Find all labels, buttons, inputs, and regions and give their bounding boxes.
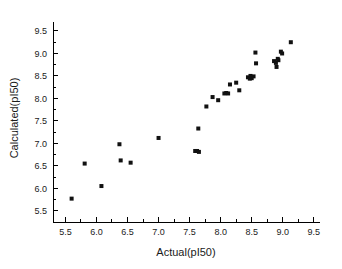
y-tick-label: 5.5	[34, 206, 47, 216]
x-tick-label: 7.5	[183, 227, 196, 237]
x-tick-label: 9.5	[308, 227, 321, 237]
data-point	[197, 150, 201, 154]
data-point	[276, 58, 280, 62]
data-point	[254, 61, 258, 65]
data-point	[237, 88, 241, 92]
y-tick-label: 7.5	[34, 116, 47, 126]
x-tick-label: 9.0	[276, 227, 289, 237]
data-point	[83, 162, 87, 166]
y-tick-label: 6.0	[34, 184, 47, 194]
data-point	[234, 81, 238, 85]
data-point	[289, 40, 293, 44]
data-point	[253, 51, 257, 55]
data-point	[216, 98, 220, 102]
data-point	[119, 158, 123, 162]
data-point	[211, 95, 215, 99]
data-point	[99, 184, 103, 188]
data-point	[157, 136, 161, 140]
data-point	[228, 82, 232, 86]
data-point	[226, 91, 230, 95]
y-tick-label: 8.5	[34, 71, 47, 81]
data-point-markers	[70, 40, 293, 200]
x-tick-label: 7.0	[152, 227, 165, 237]
x-axis-tick-labels: 5.56.06.57.07.58.08.59.09.5	[59, 227, 320, 237]
data-point	[275, 65, 279, 69]
y-axis-tick-labels: 5.56.06.57.07.58.08.59.09.5	[34, 26, 47, 216]
data-point	[280, 51, 284, 55]
data-point	[204, 104, 208, 108]
y-tick-label: 6.5	[34, 161, 47, 171]
data-point	[129, 161, 133, 165]
data-point	[252, 74, 256, 78]
x-tick-label: 6.0	[90, 227, 103, 237]
data-point	[117, 142, 121, 146]
x-tick-label: 6.5	[121, 227, 134, 237]
data-point	[70, 197, 74, 201]
data-point	[196, 127, 200, 131]
y-tick-label: 9.5	[34, 26, 47, 36]
x-tick-label: 5.5	[59, 227, 72, 237]
x-tick-label: 8.0	[214, 227, 227, 237]
x-tick-label: 8.5	[245, 227, 258, 237]
x-axis-title: Actual(pI50)	[156, 246, 215, 258]
y-tick-label: 8.0	[34, 94, 47, 104]
y-axis-title: Calculated(pI50)	[8, 78, 20, 159]
plot-canvas: 5.56.06.57.07.58.08.59.09.5 5.56.06.57.0…	[0, 0, 342, 269]
y-tick-label: 7.0	[34, 139, 47, 149]
y-tick-label: 9.0	[34, 49, 47, 59]
scatter-plot-figure: 5.56.06.57.07.58.08.59.09.5 5.56.06.57.0…	[0, 0, 342, 269]
